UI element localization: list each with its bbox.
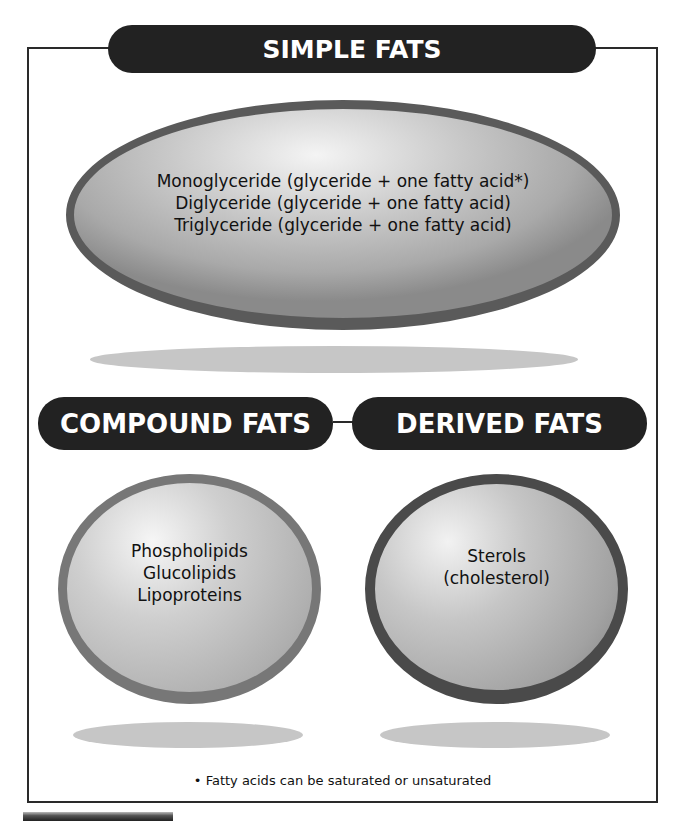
derived-fats-item: Sterols xyxy=(467,545,526,567)
compound-fats-ellipse: Phospholipids Glucolipids Lipoproteins xyxy=(58,474,321,704)
compound-fats-header: COMPOUND FATS xyxy=(38,397,333,450)
compound-fats-item: Lipoproteins xyxy=(137,584,242,606)
simple-fats-header-label: SIMPLE FATS xyxy=(263,35,442,64)
derived-fats-shadow xyxy=(380,722,610,748)
footnote: • Fatty acids can be saturated or unsatu… xyxy=(27,773,658,788)
simple-fats-item: Triglyceride (glyceride + one fatty acid… xyxy=(174,214,512,236)
compound-fats-item: Phospholipids xyxy=(131,540,248,562)
derived-fats-header-label: DERIVED FATS xyxy=(396,409,603,439)
compound-fats-item: Glucolipids xyxy=(143,562,236,584)
simple-fats-ellipse: Monoglyceride (glyceride + one fatty aci… xyxy=(66,100,620,330)
compound-fats-shadow xyxy=(73,722,303,748)
derived-fats-ellipse: Sterols (cholesterol) xyxy=(365,474,628,704)
decorative-bar xyxy=(23,812,173,821)
derived-fats-item: (cholesterol) xyxy=(443,567,550,589)
simple-fats-item: Monoglyceride (glyceride + one fatty aci… xyxy=(157,170,530,192)
header-connector-line xyxy=(333,421,353,423)
compound-fats-header-label: COMPOUND FATS xyxy=(60,409,311,439)
simple-fats-shadow xyxy=(90,346,578,373)
derived-fats-header: DERIVED FATS xyxy=(352,397,647,450)
simple-fats-item: Diglyceride (glyceride + one fatty acid) xyxy=(175,192,511,214)
simple-fats-header: SIMPLE FATS xyxy=(108,25,596,73)
